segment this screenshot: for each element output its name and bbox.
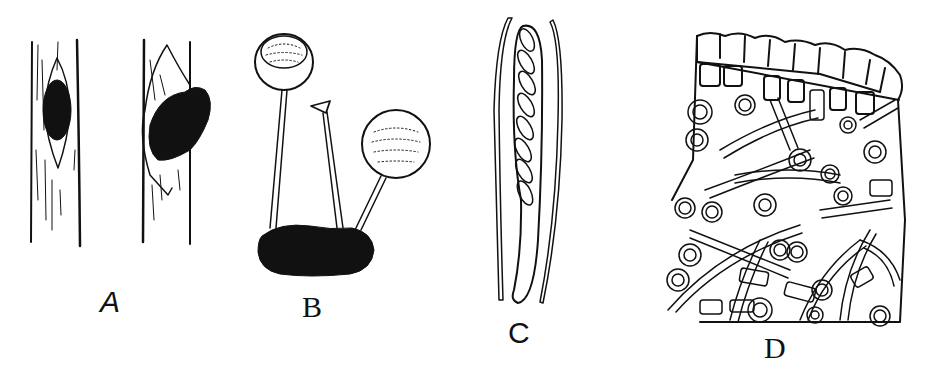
panel-label-c: C bbox=[508, 318, 530, 348]
panel-label-b: B bbox=[302, 292, 322, 322]
tissue-section bbox=[667, 33, 905, 326]
botanical-figure: A B C D bbox=[0, 0, 933, 376]
panel-label-a: A bbox=[100, 287, 120, 317]
panel-label-d: D bbox=[764, 333, 786, 363]
panel-d-drawing bbox=[0, 0, 933, 376]
